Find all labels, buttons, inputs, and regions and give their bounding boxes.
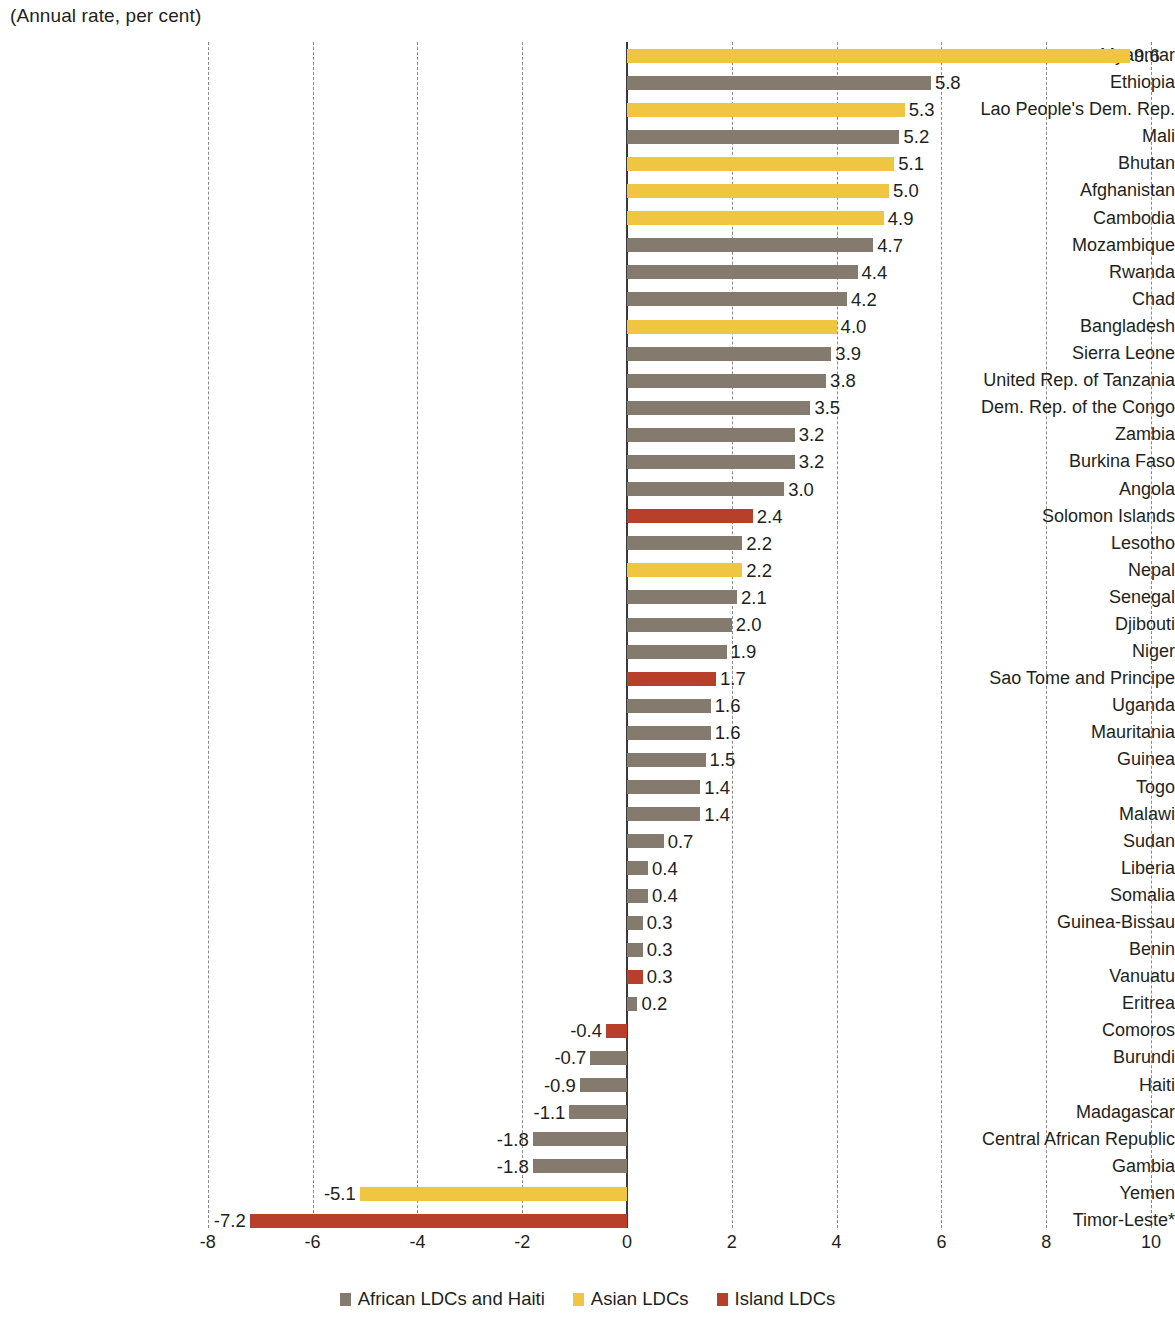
bar-row: Bangladesh4.0	[0, 313, 1175, 340]
value-label: 4.9	[888, 205, 914, 232]
value-label: 4.7	[877, 232, 903, 259]
x-tick-label: -4	[409, 1232, 425, 1253]
value-label: 3.5	[814, 394, 840, 421]
bar-asian	[360, 1187, 627, 1201]
category-label: Solomon Islands	[978, 503, 1175, 530]
bar-row: Sierra Leone3.9	[0, 340, 1175, 367]
bar-african	[627, 916, 643, 930]
bar-row: Cambodia4.9	[0, 205, 1175, 232]
value-label: -0.9	[544, 1072, 576, 1099]
bar-row: Sudan0.7	[0, 828, 1175, 855]
category-label: Bhutan	[978, 150, 1175, 177]
category-label: Sudan	[978, 828, 1175, 855]
value-label: 1.9	[731, 638, 757, 665]
bar-row: Solomon Islands2.4	[0, 503, 1175, 530]
bar-asian	[627, 320, 837, 334]
bar-row: Mauritania1.6	[0, 719, 1175, 746]
x-tick-label: -2	[514, 1232, 530, 1253]
bar-row: Burkina Faso3.2	[0, 448, 1175, 475]
bar-row: Gambia-1.8	[0, 1153, 1175, 1180]
bar-african	[627, 374, 826, 388]
bar-african	[627, 861, 648, 875]
bar-row: Mali5.2	[0, 123, 1175, 150]
category-label: Yemen	[978, 1180, 1175, 1207]
value-label: 2.2	[746, 530, 772, 557]
value-label: 5.8	[935, 69, 961, 96]
value-label: 5.2	[903, 123, 929, 150]
value-label: 3.0	[788, 476, 814, 503]
value-label: 5.3	[909, 96, 935, 123]
category-label: Burkina Faso	[978, 448, 1175, 475]
value-label: 1.5	[710, 746, 736, 773]
bar-african	[627, 618, 732, 632]
value-label: 0.4	[652, 855, 678, 882]
x-tick-label: 10	[1141, 1232, 1161, 1253]
value-label: 4.4	[862, 259, 888, 286]
bar-african	[627, 292, 847, 306]
legend-label: African LDCs and Haiti	[358, 1288, 545, 1310]
legend-label: Island LDCs	[735, 1288, 836, 1310]
legend-item-asian[interactable]: Asian LDCs	[573, 1288, 689, 1310]
value-label: 3.8	[830, 367, 856, 394]
category-label: Sao Tome and Principe	[978, 665, 1175, 692]
category-label: Liberia	[978, 855, 1175, 882]
value-label: 5.0	[893, 177, 919, 204]
bar-african	[627, 726, 711, 740]
value-label: 0.3	[647, 936, 673, 963]
bar-row: Central African Republic-1.8	[0, 1126, 1175, 1153]
bar-row: Comoros-0.4	[0, 1017, 1175, 1044]
x-tick-label: 8	[1041, 1232, 1051, 1253]
bar-african	[627, 807, 700, 821]
bar-asian	[627, 563, 742, 577]
legend: African LDCs and HaitiAsian LDCsIsland L…	[0, 1288, 1175, 1310]
value-label: 3.2	[799, 421, 825, 448]
category-label: Vanuatu	[978, 963, 1175, 990]
bar-row: Somalia0.4	[0, 882, 1175, 909]
category-label: Comoros	[978, 1017, 1175, 1044]
category-label: Niger	[978, 638, 1175, 665]
category-label: Angola	[978, 476, 1175, 503]
value-label: 9.6	[1134, 42, 1160, 69]
bar-african	[627, 889, 648, 903]
category-label: Guinea	[978, 746, 1175, 773]
bar-african	[627, 943, 643, 957]
bar-african	[627, 536, 742, 550]
bar-african	[590, 1051, 627, 1065]
bar-african	[569, 1105, 627, 1119]
value-label: 2.0	[736, 611, 762, 638]
bar-african	[627, 780, 700, 794]
category-label: United Rep. of Tanzania	[978, 367, 1175, 394]
category-label: Djibouti	[978, 611, 1175, 638]
value-label: 0.7	[668, 828, 694, 855]
bar-african	[627, 401, 810, 415]
value-label: 0.2	[641, 990, 667, 1017]
bar-row: Lao People's Dem. Rep.5.3	[0, 96, 1175, 123]
bar-row: Afghanistan5.0	[0, 177, 1175, 204]
bar-asian	[627, 157, 894, 171]
legend-item-african[interactable]: African LDCs and Haiti	[340, 1288, 545, 1310]
bar-african	[580, 1078, 627, 1092]
x-tick-label: -8	[200, 1232, 216, 1253]
chart-root: (Annual rate, per cent) Myanmar9.6Ethiop…	[0, 0, 1175, 1322]
bar-row: Ethiopia5.8	[0, 69, 1175, 96]
bar-african	[627, 645, 727, 659]
bar-island	[627, 509, 753, 523]
bar-row: Mozambique4.7	[0, 232, 1175, 259]
category-label: Mozambique	[978, 232, 1175, 259]
bar-african	[627, 130, 899, 144]
bar-row: Sao Tome and Principe1.7	[0, 665, 1175, 692]
bar-african	[533, 1159, 627, 1173]
value-label: 1.6	[715, 719, 741, 746]
category-label: Afghanistan	[978, 177, 1175, 204]
bar-row: Benin0.3	[0, 936, 1175, 963]
category-label: Central African Republic	[978, 1126, 1175, 1153]
category-label: Somalia	[978, 882, 1175, 909]
value-label: -1.8	[497, 1153, 529, 1180]
category-label: Bangladesh	[978, 313, 1175, 340]
category-label: Mauritania	[978, 719, 1175, 746]
category-label: Timor-Leste*	[978, 1207, 1175, 1234]
legend-item-island[interactable]: Island LDCs	[717, 1288, 836, 1310]
x-tick-label: 0	[622, 1232, 632, 1253]
category-label: Eritrea	[978, 990, 1175, 1017]
bar-african	[627, 997, 637, 1011]
